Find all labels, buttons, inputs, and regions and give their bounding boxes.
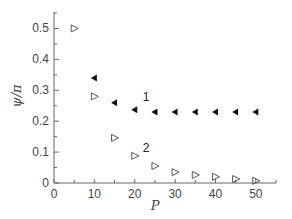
filled-triangle-marker — [192, 108, 198, 115]
y-tick-label: 0.2 — [32, 114, 49, 128]
axes — [54, 12, 276, 183]
open-triangle-marker — [192, 171, 199, 178]
filled-triangle-marker — [131, 106, 137, 113]
filled-triangle-marker — [172, 108, 178, 115]
data-points — [71, 25, 260, 184]
filled-triangle-marker — [111, 99, 117, 106]
x-tick-label: 30 — [168, 187, 182, 201]
x-tick-label: 20 — [128, 187, 142, 201]
series-label-2: 2 — [143, 141, 150, 155]
open-triangle-marker — [132, 152, 139, 159]
y-tick-label: 0.5 — [32, 21, 49, 35]
filled-triangle-marker — [91, 74, 97, 81]
series-label-1: 1 — [143, 90, 150, 104]
x-axis-label: P — [150, 198, 160, 213]
ticks: 0102030405000.10.20.30.40.5 — [32, 13, 276, 201]
scatter-chart: 0102030405000.10.20.30.40.5 12 P ψ/π — [0, 0, 292, 219]
y-axis-label: ψ/π — [9, 84, 24, 108]
y-tick-label: 0 — [42, 176, 49, 190]
x-tick-label: 10 — [88, 187, 102, 201]
filled-triangle-marker — [252, 108, 258, 115]
y-tick-label: 0.1 — [32, 145, 49, 159]
filled-triangle-marker — [212, 108, 218, 115]
y-tick-label: 0.3 — [32, 83, 49, 97]
open-triangle-marker — [91, 93, 98, 100]
x-tick-label: 50 — [249, 187, 263, 201]
x-tick-label: 0 — [51, 187, 58, 201]
open-triangle-marker — [172, 169, 179, 176]
series-labels: 12 — [143, 90, 150, 155]
filled-triangle-marker — [232, 108, 238, 115]
x-tick-label: 40 — [209, 187, 223, 201]
filled-triangle-marker — [151, 108, 157, 115]
open-triangle-marker — [112, 134, 119, 141]
open-triangle-marker — [152, 163, 159, 170]
y-tick-label: 0.4 — [32, 52, 49, 66]
open-triangle-marker — [71, 25, 78, 32]
